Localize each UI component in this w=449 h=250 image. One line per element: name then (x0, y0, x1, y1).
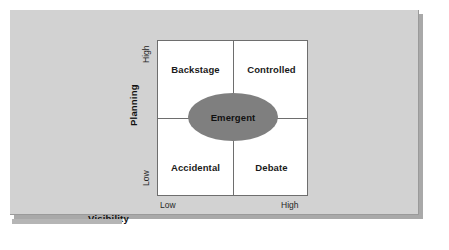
y-axis-title: Planning (128, 84, 139, 126)
quadrant-top-left-label: Backstage (171, 64, 219, 75)
panel-footer-bar (12, 219, 122, 224)
figure-panel: High Low Planning Backstage Controlled A… (10, 10, 419, 215)
quadrant-bottom-right-label: Debate (255, 162, 287, 173)
emergent-ellipse: Emergent (188, 93, 278, 141)
quadrant-top-right-label: Controlled (247, 64, 296, 75)
y-axis-tick-high: High (141, 46, 151, 63)
quadrant-bottom-left-label: Accidental (171, 162, 220, 173)
y-axis-tick-low: Low (141, 170, 151, 186)
figure-root: High Low Planning Backstage Controlled A… (0, 0, 449, 250)
emergent-label: Emergent (211, 112, 256, 123)
x-axis-tick-high: High (281, 200, 298, 210)
x-axis-tick-low: Low (160, 200, 176, 210)
